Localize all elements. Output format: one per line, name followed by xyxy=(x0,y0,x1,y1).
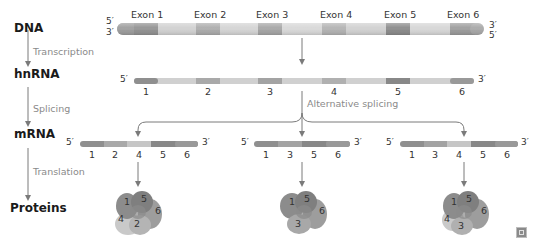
stage-label-hnrna: hnRNA xyxy=(14,67,60,81)
mrna3-exon: 3 xyxy=(429,149,441,160)
hnrna-exon-5: 5 xyxy=(392,86,404,97)
protein1-domain: 2 xyxy=(131,218,143,229)
dna-3prime-bottom: 3′ xyxy=(106,27,114,37)
protein3-domain: 1 xyxy=(448,196,460,207)
mrna1-3prime: 3′ xyxy=(202,137,210,147)
mrna3-3prime: 3′ xyxy=(521,137,529,147)
mrna1-exon: 6 xyxy=(181,149,193,160)
mrna1-5prime: 5′ xyxy=(66,137,74,147)
exon-label-1: Exon 1 xyxy=(131,9,163,20)
hnrna-exon-6: 6 xyxy=(456,86,468,97)
mrna2-exon: 3 xyxy=(284,149,296,160)
mrna1-exon: 1 xyxy=(86,149,98,160)
stage-label-mrna: mRNA xyxy=(14,127,55,141)
hnrna-exon-1: 1 xyxy=(140,86,152,97)
protein3-domain: 4 xyxy=(441,213,453,224)
hnrna-strand xyxy=(134,78,474,84)
hnrna-3prime: 3′ xyxy=(478,74,486,84)
mrna1-exon: 5 xyxy=(157,149,169,160)
mrna1-exon: 4 xyxy=(133,149,145,160)
protein2-domain: 6 xyxy=(316,205,328,216)
dna-3prime-top-right: 3′ xyxy=(489,20,497,30)
protein1-domain: 1 xyxy=(121,196,133,207)
mrna2-exon: 1 xyxy=(260,149,272,160)
mrna2-5prime: 5′ xyxy=(241,137,249,147)
branch-right-arrow xyxy=(302,113,464,134)
protein3-domain: 5 xyxy=(463,193,475,204)
diagram-graphics xyxy=(0,0,536,246)
mrna3-exon: 6 xyxy=(501,149,513,160)
mrna2-exon: 6 xyxy=(332,149,344,160)
protein3-domain: 3 xyxy=(455,220,467,231)
hnrna-exon-3: 3 xyxy=(264,86,276,97)
branch-left-arrow xyxy=(138,113,302,134)
protein3-domain: 6 xyxy=(478,205,490,216)
dna-5prime-top: 5′ xyxy=(106,16,114,26)
mrna3-exon: 1 xyxy=(406,149,418,160)
process-translation: Translation xyxy=(33,166,85,177)
mrna3-exon: 5 xyxy=(477,149,489,160)
hnrna-exon-2: 2 xyxy=(202,86,214,97)
protein1-domain: 4 xyxy=(115,213,127,224)
hnrna-5prime: 5′ xyxy=(120,74,128,84)
mrna-strand-2 xyxy=(254,141,350,147)
process-splicing: Splicing xyxy=(33,103,70,114)
exon-label-3: Exon 3 xyxy=(256,9,288,20)
dna-strand xyxy=(117,23,484,35)
mrna2-3prime: 3′ xyxy=(354,137,362,147)
mrna-strand-1 xyxy=(80,141,198,147)
mrna3-5prime: 5′ xyxy=(386,137,394,147)
dna-5prime-bottom-right: 5′ xyxy=(489,30,497,40)
protein2-domain: 5 xyxy=(301,193,313,204)
expand-icon-glyph xyxy=(519,230,524,235)
protein1-domain: 5 xyxy=(138,193,150,204)
protein2-domain: 3 xyxy=(292,218,304,229)
exon-label-6: Exon 6 xyxy=(447,9,479,20)
mrna-strand-3 xyxy=(400,141,518,147)
stage-label-dna: DNA xyxy=(14,21,43,35)
mrna3-exon: 4 xyxy=(453,149,465,160)
process-alternative-splicing: Alternative splicing xyxy=(307,98,398,109)
exon-label-2: Exon 2 xyxy=(194,9,226,20)
protein1-domain: 6 xyxy=(152,205,164,216)
stage-label-proteins: Proteins xyxy=(10,201,67,215)
process-transcription: Transcription xyxy=(33,46,94,57)
exon-label-5: Exon 5 xyxy=(384,9,416,20)
mrna1-exon: 2 xyxy=(109,149,121,160)
exon-label-4: Exon 4 xyxy=(320,9,352,20)
hnrna-exon-4: 4 xyxy=(328,86,340,97)
mrna2-exon: 5 xyxy=(308,149,320,160)
expand-icon[interactable] xyxy=(516,227,527,238)
protein2-domain: 1 xyxy=(286,196,298,207)
